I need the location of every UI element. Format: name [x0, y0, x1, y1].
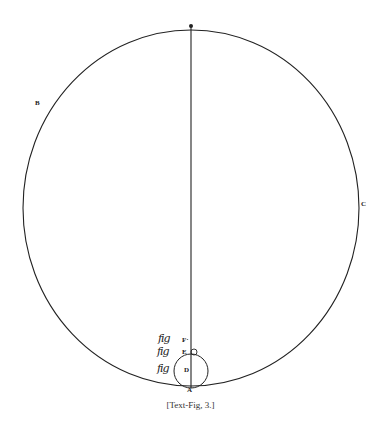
- label-e: E: [182, 349, 187, 356]
- figure-caption: [Text-Fig, 3.]: [0, 400, 381, 410]
- marginal-glyph-3: fig: [157, 363, 169, 374]
- label-b: B: [35, 100, 40, 107]
- label-d: D: [184, 367, 189, 374]
- diagram-canvas: [0, 0, 381, 422]
- top-point-dot: [189, 24, 193, 28]
- label-c: C: [361, 201, 366, 208]
- label-a: A: [187, 387, 192, 394]
- marginal-glyph-2: fig: [157, 346, 169, 357]
- marginal-glyph-1: fig: [158, 333, 170, 344]
- label-f: F·: [182, 337, 189, 344]
